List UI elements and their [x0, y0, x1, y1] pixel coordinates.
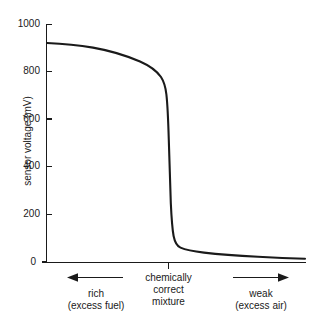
sensor-voltage-curve [47, 43, 305, 259]
axes-group [46, 24, 306, 263]
ytick-label-400: 400 [0, 161, 40, 171]
y-axis-label: sensor voltage (mV) [23, 61, 33, 221]
weak-arrow-head [278, 273, 289, 282]
sensor-voltage-chart: 1000 800 600 400 200 0 sensor voltage (m… [0, 0, 317, 322]
rich-arrow-head [67, 273, 78, 282]
ytick-label-1000: 1000 [0, 19, 40, 29]
ytick-label-600: 600 [0, 114, 40, 124]
weak-region-line-2: (excess air) [202, 300, 317, 312]
ytick-label-200: 200 [0, 209, 40, 219]
weak-arrow [233, 273, 289, 282]
weak-region-caption: weak (excess air) [202, 288, 317, 312]
ytick-label-800: 800 [0, 66, 40, 76]
rich-arrow [67, 273, 123, 282]
weak-region-line-1: weak [202, 288, 317, 300]
stoichiometric-region-line-1: chemically [120, 272, 217, 284]
ytick-label-0: 0 [0, 257, 36, 267]
